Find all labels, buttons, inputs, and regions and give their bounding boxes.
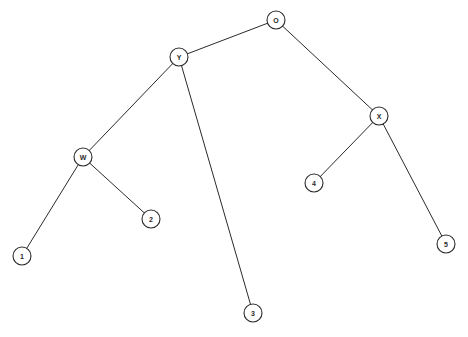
nodes-layer: OYXW42153 <box>13 11 455 322</box>
tree-node-3: 3 <box>244 304 262 322</box>
edge-W-2 <box>83 157 151 219</box>
node-label: Y <box>177 54 182 61</box>
node-label: 1 <box>20 253 24 260</box>
tree-node-Y: Y <box>170 48 188 66</box>
edge-Y-3 <box>179 57 253 313</box>
edge-O-X <box>276 20 379 116</box>
tree-node-4: 4 <box>305 174 323 192</box>
edge-X-4 <box>314 116 379 183</box>
tree-diagram-canvas: OYXW42153 <box>0 0 468 337</box>
tree-diagram: OYXW42153 <box>0 0 468 337</box>
tree-node-2: 2 <box>142 210 160 228</box>
tree-node-W: W <box>74 148 92 166</box>
node-label: 2 <box>149 216 153 223</box>
node-label: 4 <box>312 180 316 187</box>
node-label: X <box>377 113 382 120</box>
tree-node-1: 1 <box>13 247 31 265</box>
tree-node-X: X <box>370 107 388 125</box>
edge-O-Y <box>179 20 276 57</box>
edge-Y-W <box>83 57 179 157</box>
tree-node-5: 5 <box>437 235 455 253</box>
node-label: 5 <box>444 241 448 248</box>
edge-X-5 <box>379 116 446 244</box>
edge-W-1 <box>22 157 83 256</box>
tree-node-O: O <box>267 11 285 29</box>
node-label: O <box>273 17 279 24</box>
node-label: W <box>80 154 87 161</box>
edges-layer <box>22 20 446 313</box>
node-label: 3 <box>251 310 255 317</box>
